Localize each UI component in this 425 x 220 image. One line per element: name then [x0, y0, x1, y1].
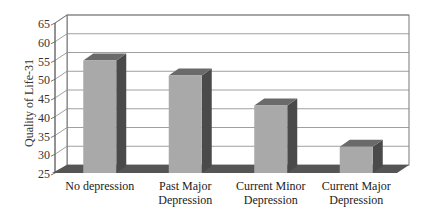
- y-tick-label: 35: [38, 130, 50, 144]
- y-tick-label: 55: [38, 55, 50, 69]
- bar: [169, 69, 212, 174]
- x-tick-label: Current MinorDepression: [236, 179, 306, 207]
- x-tick-label: Past MajorDepression: [158, 179, 212, 207]
- y-tick: [51, 42, 55, 44]
- bar-front: [83, 61, 116, 174]
- bar-front: [340, 147, 373, 173]
- y-tick: [51, 136, 55, 138]
- y-tick: [51, 61, 55, 63]
- x-axis-labels: No depressionPast MajorDepressionCurrent…: [65, 179, 390, 207]
- bar: [254, 99, 297, 174]
- y-tick-label: 50: [38, 73, 50, 87]
- y-tick: [51, 98, 55, 100]
- y-tick: [51, 23, 55, 25]
- y-tick: [51, 79, 55, 81]
- x-tick-label: Current MajorDepression: [322, 179, 391, 207]
- bar-side: [287, 99, 297, 174]
- bar: [83, 54, 126, 174]
- y-tick-label: 40: [38, 111, 50, 125]
- y-axis: 253035404550556065: [38, 17, 55, 181]
- x-tick-label: No depression: [65, 179, 134, 193]
- y-tick: [51, 173, 55, 175]
- y-axis-title: Quality of Life-31: [22, 59, 36, 147]
- bar-side: [116, 54, 126, 174]
- y-tick: [51, 117, 55, 119]
- y-tick-label: 30: [38, 148, 50, 162]
- bar-front: [169, 76, 202, 174]
- bar-chart: 253035404550556065 No depressionPast Maj…: [0, 0, 425, 220]
- bar-side: [202, 69, 212, 174]
- y-tick-label: 65: [38, 17, 50, 31]
- y-tick-label: 45: [38, 92, 50, 106]
- y-tick-label: 25: [38, 167, 50, 181]
- y-tick-label: 60: [38, 36, 50, 50]
- bar-front: [254, 106, 287, 174]
- y-tick: [51, 154, 55, 156]
- bar: [340, 140, 383, 173]
